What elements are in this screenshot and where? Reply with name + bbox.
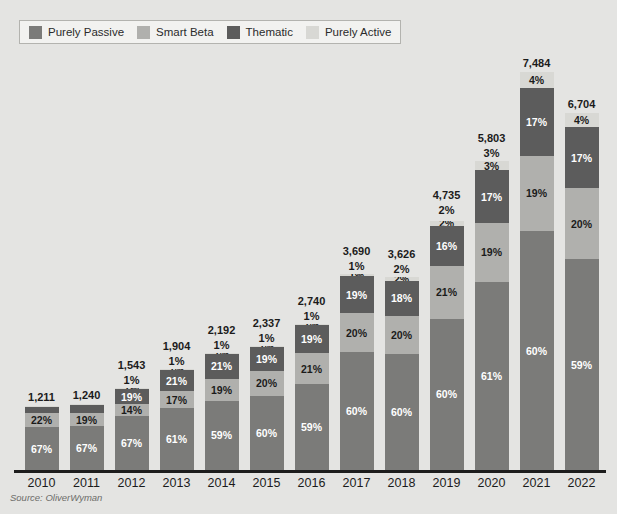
bar-top-pct-label-2014: 1% (214, 339, 230, 351)
source-note: Source: OliverWyman (10, 492, 102, 503)
bar-total-label-2020: 5,803 (478, 132, 506, 144)
bar-segment-purely-active-2021: 4% (520, 72, 554, 88)
bar-stack-2010: 22%67% (25, 406, 59, 470)
bar-top-pct-label-2013: 1% (169, 355, 185, 367)
bar-segment-smart-beta-2022: 20% (565, 188, 599, 259)
bar-column-2010[interactable]: 1,21122%67% (19, 12, 64, 470)
bar-total-label-2016: 2,740 (298, 295, 326, 307)
bar-segment-purely-passive-2020: 61% (475, 282, 509, 470)
bar-segment-smart-beta-2021: 19% (520, 156, 554, 232)
bar-stack-2017: 1%19%20%60% (340, 274, 374, 470)
bar-column-2020[interactable]: 5,8033%3%17%19%61% (469, 12, 514, 470)
bar-segment-thematic-2020: 17% (475, 170, 509, 223)
bar-segment-thematic-2018: 18% (385, 281, 419, 316)
bar-total-label-2021: 7,484 (523, 57, 551, 69)
bar-total-label-2014: 2,192 (208, 324, 236, 336)
bar-segment-thematic-2021: 17% (520, 88, 554, 156)
bar-top-pct-label-2015: 1% (259, 332, 275, 344)
bar-column-2013[interactable]: 1,9041%1%21%17%61% (154, 12, 199, 470)
x-tick-2011: 2011 (64, 476, 109, 490)
bar-column-2015[interactable]: 2,3371%1%19%20%60% (244, 12, 289, 470)
bar-segment-purely-passive-2021: 60% (520, 231, 554, 470)
bar-segment-thematic-2012: 19% (115, 389, 149, 404)
x-tick-2019: 2019 (424, 476, 469, 490)
bar-column-2018[interactable]: 3,6262%2%18%20%60% (379, 12, 424, 470)
bar-total-label-2015: 2,337 (253, 317, 281, 329)
bar-column-2022[interactable]: 6,7044%17%20%59% (559, 12, 604, 470)
bar-segment-purely-passive-2022: 59% (565, 259, 599, 470)
x-tick-2017: 2017 (334, 476, 379, 490)
bar-segment-purely-passive-2014: 59% (205, 401, 239, 470)
bar-segment-purely-passive-2016: 59% (295, 384, 329, 470)
bar-total-label-2018: 3,626 (388, 248, 416, 260)
chart-container: Purely Passive Smart Beta Thematic Purel… (0, 0, 617, 514)
bar-stack-2012: 1%19%14%67% (115, 388, 149, 470)
bar-column-2017[interactable]: 3,6901%1%19%20%60% (334, 12, 379, 470)
bar-stack-2018: 2%18%20%60% (385, 277, 419, 470)
bar-segment-thematic-2014: 21% (205, 354, 239, 379)
bar-column-2014[interactable]: 2,1921%1%21%19%59% (199, 12, 244, 470)
bar-segment-purely-passive-2011: 67% (70, 426, 104, 470)
x-tick-2022: 2022 (559, 476, 604, 490)
bar-stack-2015: 1%19%20%60% (250, 346, 284, 470)
bar-segment-thematic-2016: 19% (295, 325, 329, 353)
bar-segment-smart-beta-2017: 20% (340, 313, 374, 352)
bar-column-2016[interactable]: 2,7401%1%19%21%59% (289, 12, 334, 470)
bar-segment-thematic-2013: 21% (160, 370, 194, 391)
bar-stack-2021: 4%17%19%60% (520, 72, 554, 470)
bar-segment-smart-beta-2014: 19% (205, 379, 239, 401)
bar-top-pct-label-2018: 2% (394, 263, 410, 275)
bar-segment-smart-beta-2019: 21% (430, 266, 464, 319)
x-tick-2021: 2021 (514, 476, 559, 490)
bar-stack-2022: 4%17%20%59% (565, 113, 599, 470)
bar-total-label-2013: 1,904 (163, 340, 191, 352)
bar-total-label-2017: 3,690 (343, 245, 371, 257)
bar-total-label-2010: 1,211 (28, 391, 55, 403)
x-axis-tick-labels: 2010201120122013201420152016201720182019… (19, 476, 604, 490)
bar-segment-thematic-2017: 19% (340, 276, 374, 313)
bar-segment-purely-passive-2018: 60% (385, 354, 419, 470)
bar-stack-2014: 1%21%19%59% (205, 353, 239, 470)
bar-segment-purely-active-2022: 4% (565, 113, 599, 127)
bar-series-group: 1,21122%67%1,24019%67%1,5431%1%19%14%67%… (19, 12, 604, 470)
bar-segment-smart-beta-2018: 20% (385, 316, 419, 355)
bar-segment-smart-beta-2010: 22% (25, 413, 59, 427)
bar-segment-smart-beta-2020: 19% (475, 223, 509, 282)
bar-stack-2019: 2%16%21%60% (430, 218, 464, 470)
bar-segment-purely-passive-2019: 60% (430, 319, 464, 470)
bar-segment-thematic-2015: 19% (250, 347, 284, 371)
bar-column-2011[interactable]: 1,24019%67% (64, 12, 109, 470)
bar-segment-smart-beta-2015: 20% (250, 371, 284, 396)
bar-total-label-2019: 4,735 (433, 189, 461, 201)
x-tick-2018: 2018 (379, 476, 424, 490)
bar-stack-2020: 3%17%19%61% (475, 161, 509, 470)
x-tick-2016: 2016 (289, 476, 334, 490)
bar-column-2012[interactable]: 1,5431%1%19%14%67% (109, 12, 154, 470)
bar-segment-purely-active-2020: 3% (475, 161, 509, 170)
bar-segment-purely-passive-2017: 60% (340, 352, 374, 470)
bar-segment-purely-passive-2010: 67% (25, 427, 59, 470)
bar-total-label-2012: 1,543 (118, 359, 146, 371)
bar-segment-smart-beta-2012: 14% (115, 404, 149, 415)
bar-top-pct-label-2017: 1% (349, 260, 365, 272)
bar-top-pct-label-2016: 1% (304, 310, 320, 322)
bar-segment-thematic-2011 (70, 405, 104, 414)
bar-total-label-2022: 6,704 (568, 98, 596, 110)
bar-total-label-2011: 1,240 (73, 389, 101, 401)
bar-column-2021[interactable]: 7,4844%17%19%60% (514, 12, 559, 470)
bar-segment-purely-passive-2012: 67% (115, 416, 149, 470)
bar-column-2019[interactable]: 4,7352%2%16%21%60% (424, 12, 469, 470)
plot-area: 1,21122%67%1,24019%67%1,5431%1%19%14%67%… (19, 12, 604, 470)
bar-segment-thematic-2019: 16% (430, 226, 464, 266)
bar-stack-2016: 1%19%21%59% (295, 324, 329, 470)
bar-top-pct-label-2019: 2% (439, 204, 455, 216)
bar-stack-2011: 19%67% (70, 404, 104, 470)
x-tick-2014: 2014 (199, 476, 244, 490)
x-tick-2020: 2020 (469, 476, 514, 490)
bar-stack-2013: 1%21%17%61% (160, 369, 194, 470)
bar-top-pct-label-2020: 3% (484, 147, 500, 159)
x-tick-2012: 2012 (109, 476, 154, 490)
bar-segment-smart-beta-2013: 17% (160, 391, 194, 408)
bar-segment-thematic-2022: 17% (565, 127, 599, 188)
bar-segment-purely-passive-2015: 60% (250, 396, 284, 470)
